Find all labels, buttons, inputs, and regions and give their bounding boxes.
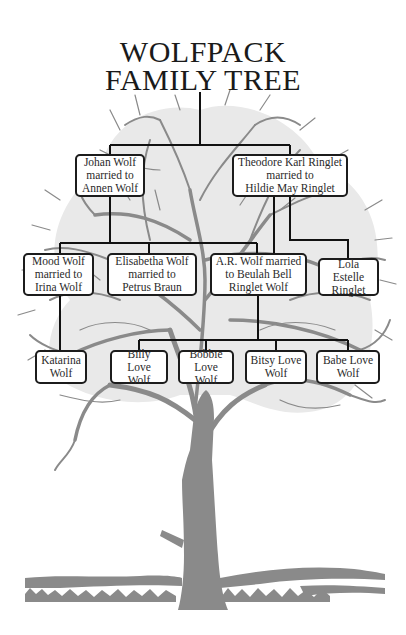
title-line-2: FAMILY TREE [0,66,406,94]
person-node-ar: A.R. Wolf married to Beulah Bell Ringlet… [210,253,307,296]
person-node-billy: Billy Love Wolf [110,350,168,384]
person-node-bobbie: Bobbie Love Wolf [178,350,234,384]
person-node-elisabetha: Elisabetha Wolf married to Petrus Braun [107,253,197,296]
title-line-1: WOLFPACK [0,38,406,66]
person-node-mood: Mood Wolf married to Irina Wolf [23,253,94,296]
person-node-katarina: Katarina Wolf [35,350,87,384]
family-tree-diagram: WOLFPACK FAMILY TREE Johan Wolf married … [0,0,406,635]
tree-trunk-icon [178,390,228,610]
person-node-babe: Babe Love Wolf [316,350,380,384]
person-node-lola: Lola Estelle Ringlet [318,258,379,296]
person-node-johan: Johan Wolf married to Annen Wolf [75,154,145,197]
person-node-theodore: Theodore Karl Ringlet married to Hildie … [232,154,348,197]
person-node-bitsy: Bitsy Love Wolf [245,350,307,384]
